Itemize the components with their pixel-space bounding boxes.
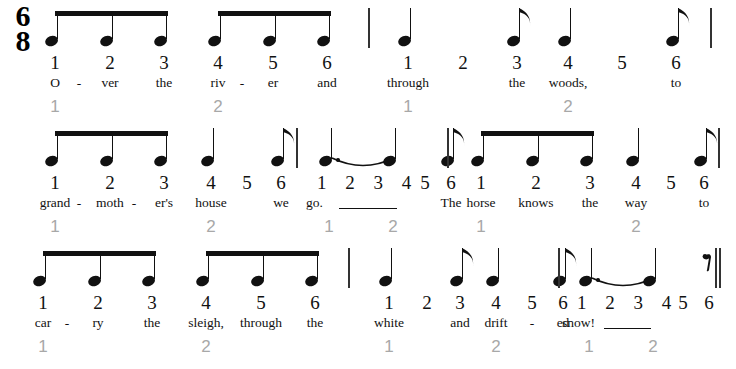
beat-number: 6 [304, 53, 350, 72]
lyric-syllable: and [295, 76, 359, 90]
beat-slot: 4 riv 2 [195, 0, 241, 120]
note-eighth-beamed [141, 120, 187, 172]
beat-number: 4 [545, 53, 591, 72]
lyric-syllable: to [644, 76, 708, 90]
note-stem [100, 253, 102, 279]
beat-number: 2 [513, 173, 559, 192]
note-stem [57, 13, 59, 39]
beat-number: 6 [258, 173, 304, 192]
note-stem [638, 128, 640, 159]
note-eighth-beamed [292, 240, 338, 292]
beat-slot: 6 to [681, 120, 727, 240]
pulse-number: 1 [32, 218, 78, 235]
beat-slot: 5 through [238, 240, 284, 360]
note-eighth-beamed [183, 240, 229, 292]
beat-number: 1 [32, 53, 78, 72]
pulse-number: 2 [183, 338, 229, 355]
pulse-number: 1 [566, 338, 612, 355]
note-eighth-beamed [20, 240, 66, 292]
pulse-number: 2 [545, 98, 591, 115]
beat-slot: 3 the [494, 0, 540, 120]
note-stem [112, 133, 114, 159]
lyric-syllable: through [376, 76, 440, 90]
pulse-number: 1 [20, 338, 66, 355]
beat-number: 6 [681, 173, 727, 192]
note-stem [166, 13, 168, 39]
note-stem [483, 133, 485, 159]
note-eighth-beamed [238, 240, 284, 292]
beat-number: 6 [653, 53, 699, 72]
barline [368, 8, 370, 48]
barline [296, 128, 298, 168]
beat-number: 3 [129, 293, 175, 312]
beat-slot: 3 the [129, 240, 175, 360]
note-eighth-beamed [195, 0, 241, 52]
beat-slot: 6 [686, 240, 732, 360]
note-stem [263, 253, 265, 279]
lyric-syllable: to [672, 196, 736, 210]
note-eighth-beamed [32, 120, 78, 172]
music-system-1: 6 8 1 O 1 - 2 ver [0, 0, 736, 120]
pulse-number: 1 [458, 218, 504, 235]
beat-slot: 6 and [304, 0, 350, 120]
beat-slot: 2 ver [87, 0, 133, 120]
beat-number: 1 [20, 293, 66, 312]
note-stem [331, 128, 333, 159]
beat-slot: 5 [599, 0, 645, 120]
beat-number: 2 [440, 53, 486, 72]
beat-slot: 1 through 1 [385, 0, 431, 120]
beat-slot: 4 woods, 2 [545, 0, 591, 120]
note-stem [410, 8, 412, 39]
beat-number: 1 [385, 53, 431, 72]
beat-number: 1 [32, 173, 78, 192]
barline-final [715, 248, 717, 288]
music-system-2: 1 grand 1 - 2 moth - 3 er's [0, 120, 736, 240]
note-eighth-beamed [87, 120, 133, 172]
note-eighth-beamed [458, 120, 504, 172]
barline [348, 248, 350, 288]
note-stem [329, 13, 331, 39]
beat-number: 1 [458, 173, 504, 192]
note-eighth-beamed [87, 0, 133, 52]
note-eighth [681, 120, 727, 172]
beat-slot: 1 grand 1 [32, 120, 78, 240]
note-eighth-beamed [513, 120, 559, 172]
note-stem [166, 133, 168, 159]
beat-slot: 3 er's [141, 120, 187, 240]
music-system-3: 1 car 1 - 2 ry 3 the 4 [0, 240, 736, 360]
beat-number: 2 [87, 53, 133, 72]
note-stem [591, 248, 593, 279]
note-eighth [653, 0, 699, 52]
beat-slot: 2 [440, 0, 486, 120]
beat-slot: 3 the [567, 120, 613, 240]
eighth-flag-icon [518, 7, 534, 33]
rhythm-score-sheet: 6 8 1 O 1 - 2 ver [0, 0, 736, 369]
beat-number: 6 [292, 293, 338, 312]
pulse-number: 1 [385, 98, 431, 115]
note-eighth-beamed [250, 0, 296, 52]
lyric-syllable: the [283, 316, 347, 330]
note-stem [208, 253, 210, 279]
beat-number: 3 [141, 53, 187, 72]
beat-slot: 1 O 1 [32, 0, 78, 120]
beat-number: 3 [494, 53, 540, 72]
beat-number: 4 [183, 293, 229, 312]
eighth-rest-icon [702, 252, 716, 276]
barline [558, 248, 560, 288]
pulse-number: 2 [195, 98, 241, 115]
beat-number: 3 [141, 173, 187, 192]
beat-slot: 2 knows [513, 120, 559, 240]
beat-slot: 6 the [292, 240, 338, 360]
note-eighth [494, 0, 540, 52]
beat-slot: 1 car 1 [20, 240, 66, 360]
beat-number: 5 [599, 53, 645, 72]
note-stem [498, 248, 500, 279]
note-quarter [385, 0, 431, 52]
note-stem [317, 253, 319, 279]
beat-number: 5 [250, 53, 296, 72]
beat-slot: 4 sleigh, 2 [183, 240, 229, 360]
note-stem [391, 248, 393, 279]
note-stem [538, 133, 540, 159]
beat-number: 3 [567, 173, 613, 192]
note-stem [655, 248, 657, 279]
